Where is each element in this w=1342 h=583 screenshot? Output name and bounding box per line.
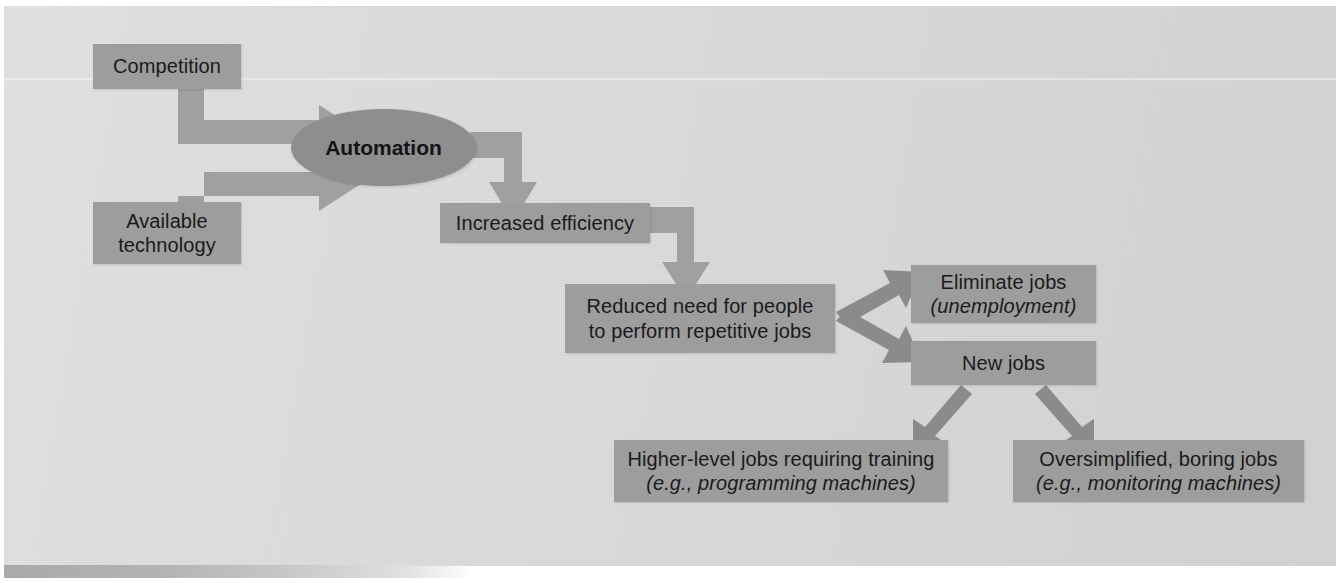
node-increased-efficiency[interactable]: Increased efficiency bbox=[440, 203, 650, 243]
node-available-technology-line1: Available bbox=[118, 209, 216, 233]
node-oversimplified-jobs-line2: (e.g., monitoring machines) bbox=[1036, 471, 1281, 495]
flowchart-page: Competition Available technology Automat… bbox=[0, 0, 1342, 583]
node-higher-level-jobs-line2: (e.g., programming machines) bbox=[627, 471, 934, 495]
node-higher-level-jobs-line1: Higher-level jobs requiring training bbox=[627, 447, 934, 471]
node-available-technology-line2: technology bbox=[118, 233, 216, 257]
node-new-jobs[interactable]: New jobs bbox=[911, 341, 1096, 385]
node-eliminate-jobs-line1: Eliminate jobs bbox=[931, 270, 1077, 294]
node-reduced-need-line1: Reduced need for people bbox=[587, 294, 814, 318]
node-increased-efficiency-label: Increased efficiency bbox=[456, 211, 634, 235]
node-new-jobs-label: New jobs bbox=[962, 351, 1045, 375]
node-reduced-need[interactable]: Reduced need for people to perform repet… bbox=[565, 284, 835, 353]
node-automation-label: Automation bbox=[325, 136, 442, 160]
node-eliminate-jobs-line2: (unemployment) bbox=[931, 294, 1077, 318]
node-eliminate-jobs-text: Eliminate jobs (unemployment) bbox=[931, 270, 1077, 319]
node-eliminate-jobs[interactable]: Eliminate jobs (unemployment) bbox=[911, 265, 1096, 323]
node-available-technology[interactable]: Available technology bbox=[93, 202, 241, 264]
node-reduced-need-line2: to perform repetitive jobs bbox=[587, 319, 814, 343]
node-available-technology-text: Available technology bbox=[118, 209, 216, 258]
page-bottom-shadow-strip bbox=[4, 565, 474, 578]
node-reduced-need-text: Reduced need for people to perform repet… bbox=[587, 294, 814, 343]
node-higher-level-jobs[interactable]: Higher-level jobs requiring training (e.… bbox=[614, 440, 948, 502]
node-competition-label: Competition bbox=[113, 54, 221, 78]
node-automation[interactable]: Automation bbox=[291, 109, 476, 186]
node-competition[interactable]: Competition bbox=[93, 44, 241, 89]
node-higher-level-jobs-text: Higher-level jobs requiring training (e.… bbox=[627, 447, 934, 496]
node-oversimplified-jobs-text: Oversimplified, boring jobs (e.g., monit… bbox=[1036, 447, 1281, 496]
node-oversimplified-jobs-line1: Oversimplified, boring jobs bbox=[1036, 447, 1281, 471]
node-oversimplified-jobs[interactable]: Oversimplified, boring jobs (e.g., monit… bbox=[1013, 440, 1304, 502]
